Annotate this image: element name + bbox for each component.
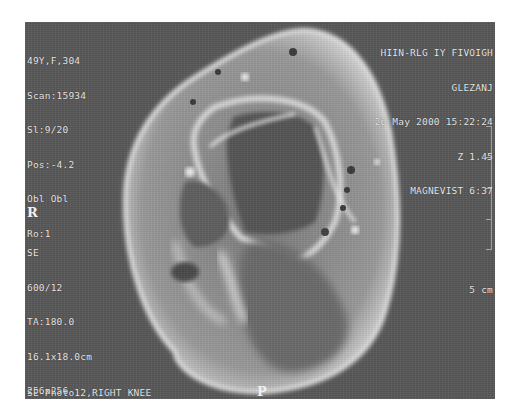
series-label: SE Photo12,RIGHT KNEE	[27, 387, 151, 399]
overlay-line: 26 May 2000 15:22:24	[375, 116, 493, 128]
scale-label: 5 cm	[469, 284, 493, 296]
orientation-marker-right: R	[27, 205, 38, 220]
overlay-line: 16.1x18.0cm	[27, 351, 92, 363]
overlay-line: HIIN-RLG IY FIVOIGH	[375, 47, 493, 59]
overlay-line: GLEZANJ	[375, 82, 493, 94]
scale-ruler	[485, 126, 492, 250]
overlay-line: 600/12	[27, 282, 92, 294]
mri-image-frame: 49Y,F,304 Scan:15934 Sl:9/20 Pos:-4.2 Ob…	[25, 22, 495, 399]
overlay-line: MAGNEVIST 6:37	[375, 185, 493, 197]
institution-date-info: HIIN-RLG IY FIVOIGH GLEZANJ 26 May 2000 …	[375, 24, 493, 220]
overlay-line: Pos:-4.2	[27, 159, 86, 171]
sequence-parameters: SE 600/12 TA:180.0 16.1x18.0cm 256x256 4…	[27, 224, 92, 399]
orientation-marker-posterior: P	[257, 384, 267, 399]
overlay-line: Z 1.45	[375, 151, 493, 163]
window-level-info: C1 1371 W1 3166	[452, 374, 493, 399]
overlay-line: 49Y,F,304	[27, 55, 86, 67]
overlay-line: TA:180.0	[27, 316, 92, 328]
overlay-line: SE	[27, 247, 92, 259]
overlay-line: Obl Obl	[27, 193, 86, 205]
overlay-line: Sl:9/20	[27, 124, 86, 136]
overlay-line: C1 1371	[452, 397, 493, 399]
overlay-line: Scan:15934	[27, 90, 86, 102]
